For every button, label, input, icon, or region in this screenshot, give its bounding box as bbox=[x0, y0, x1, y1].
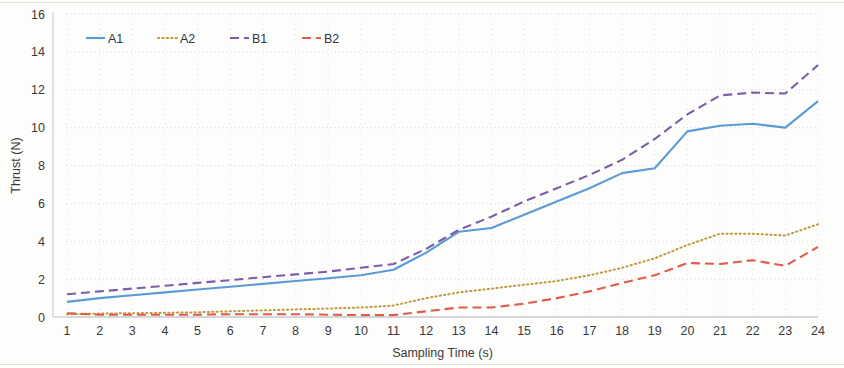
y-tick-label: 14 bbox=[31, 45, 45, 59]
x-tick-label: 18 bbox=[615, 324, 629, 338]
x-tick-label: 2 bbox=[96, 324, 103, 338]
x-tick-label: 1 bbox=[64, 324, 71, 338]
x-tick-label: 22 bbox=[746, 324, 760, 338]
y-axis-tick-labels: 0246810121416 bbox=[31, 8, 45, 325]
x-tick-label: 11 bbox=[387, 324, 400, 338]
chart-legend: A1A2B1B2 bbox=[86, 32, 339, 46]
y-tick-label: 2 bbox=[38, 273, 45, 287]
x-tick-label: 14 bbox=[485, 324, 499, 338]
y-axis-title: Thrust (N) bbox=[9, 137, 23, 193]
x-tick-label: 16 bbox=[550, 324, 564, 338]
x-tick-label: 6 bbox=[227, 324, 234, 338]
x-tick-label: 19 bbox=[648, 324, 662, 338]
x-tick-label: 7 bbox=[259, 324, 266, 338]
y-tick-label: 0 bbox=[38, 311, 45, 325]
y-tick-label: 4 bbox=[38, 235, 45, 249]
x-tick-label: 12 bbox=[419, 324, 433, 338]
x-tick-label: 9 bbox=[325, 324, 332, 338]
series-line-a1 bbox=[67, 101, 818, 302]
x-tick-label: 21 bbox=[713, 324, 727, 338]
y-tick-label: 16 bbox=[31, 8, 45, 22]
x-tick-label: 10 bbox=[354, 324, 368, 338]
x-tick-label: 8 bbox=[292, 324, 299, 338]
series-line-a2 bbox=[67, 224, 818, 314]
legend-label-b2[interactable]: B2 bbox=[324, 32, 339, 46]
x-axis-title: Sampling Time (s) bbox=[392, 346, 493, 360]
x-tick-label: 5 bbox=[194, 324, 201, 338]
legend-label-a2[interactable]: A2 bbox=[180, 32, 195, 46]
y-tick-label: 6 bbox=[38, 197, 45, 211]
x-tick-label: 17 bbox=[582, 324, 596, 338]
x-tick-label: 23 bbox=[778, 324, 792, 338]
series-line-b2 bbox=[67, 247, 818, 315]
data-series-layer bbox=[67, 65, 818, 315]
x-tick-label: 4 bbox=[162, 324, 169, 338]
legend-label-a1[interactable]: A1 bbox=[108, 32, 123, 46]
thrust-line-chart: 0246810121416 12345678910111213141516171… bbox=[0, 0, 844, 368]
series-line-b1 bbox=[67, 65, 818, 294]
gridlines bbox=[67, 14, 818, 317]
x-tick-label: 15 bbox=[517, 324, 531, 338]
legend-label-b1[interactable]: B1 bbox=[252, 32, 267, 46]
y-tick-label: 12 bbox=[31, 83, 45, 97]
axis-lines bbox=[53, 12, 818, 317]
y-tick-label: 10 bbox=[31, 121, 45, 135]
x-tick-label: 20 bbox=[680, 324, 694, 338]
y-tick-label: 8 bbox=[38, 159, 45, 173]
x-tick-label: 3 bbox=[129, 324, 136, 338]
chart-container: 0246810121416 12345678910111213141516171… bbox=[0, 0, 844, 368]
x-tick-label: 13 bbox=[452, 324, 466, 338]
x-tick-label: 24 bbox=[811, 324, 825, 338]
x-axis-tick-labels: 123456789101112131415161718192021222324 bbox=[64, 324, 825, 338]
